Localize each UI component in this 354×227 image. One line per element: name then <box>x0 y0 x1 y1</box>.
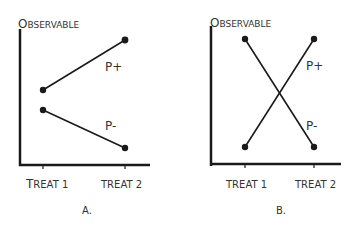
panel-a-xlabel-treat2: TREAT 2 <box>100 179 142 190</box>
panel-b-ylabel: OBSERVABLE <box>210 16 272 30</box>
panel-a-caption: A. <box>82 205 92 216</box>
panel-b-xlabel-treat1: TREAT 1 <box>225 179 267 190</box>
panel-a-ylabel: OBSERVABLE <box>18 17 80 31</box>
panel-b-point-p-minus-treat1 <box>242 36 248 42</box>
panel-b-caption: B. <box>276 205 286 216</box>
panel-b: OBSERVABLE P+ P- TREAT 1 TREAT 2 B. <box>210 16 341 216</box>
panel-b-point-p-plus-treat2 <box>311 36 317 42</box>
panel-a-label-p-plus: P+ <box>105 60 122 74</box>
panel-b-label-p-minus: P- <box>306 119 317 133</box>
panel-a-point-p-minus-treat1 <box>40 107 46 113</box>
panel-a-point-p-plus-treat2 <box>122 37 129 44</box>
panel-b-xlabel-treat2: TREAT 2 <box>294 179 336 190</box>
panel-a-point-p-minus-treat2 <box>122 145 128 151</box>
panel-b-label-p-plus: P+ <box>306 59 323 73</box>
figure: OBSERVABLE P+ P- TREAT 1 TREAT 2 A. OBSE… <box>0 0 354 227</box>
panel-b-point-p-plus-treat1 <box>242 144 248 150</box>
panel-a-label-p-minus: P- <box>105 119 116 133</box>
panel-a-xlabel-treat1: TREAT 1 <box>25 177 68 191</box>
panel-a-point-p-plus-treat1 <box>40 87 46 93</box>
panel-b-point-p-minus-treat2 <box>311 144 317 150</box>
panel-a: OBSERVABLE P+ P- TREAT 1 TREAT 2 A. <box>18 17 150 216</box>
